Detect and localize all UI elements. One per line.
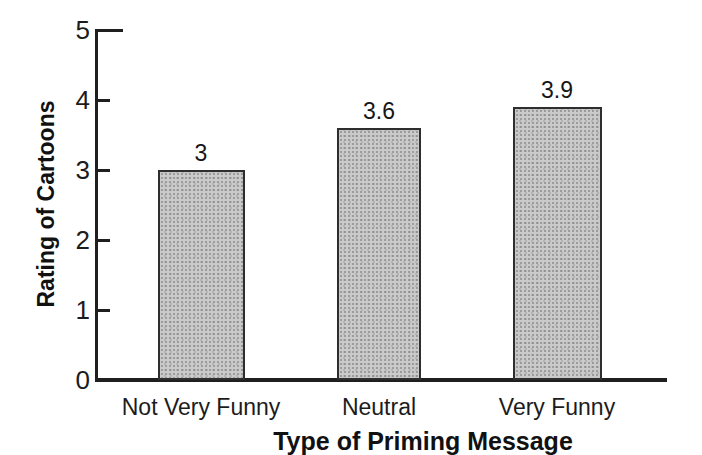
bar [158,170,245,380]
y-tick-label: 4 [28,86,90,114]
bar [337,128,421,380]
category-label: Very Funny [447,394,667,420]
y-axis-line [95,30,98,382]
y-tick [98,239,110,242]
y-tick-label: 0 [28,366,90,394]
y-tick-label: 3 [28,156,90,184]
bar-value-label: 3.6 [334,98,424,124]
y-tick [98,99,110,102]
x-axis-title: Type of Priming Message [223,427,623,455]
y-tick-label: 5 [28,16,90,44]
y-tick [98,309,110,312]
bar [513,107,602,380]
y-axis-top-tick [95,29,123,32]
bar-value-label: 3 [156,140,246,166]
y-tick [98,169,110,172]
y-tick-label: 1 [28,296,90,324]
bar-value-label: 3.9 [512,77,602,103]
bar-chart-figure: Rating of Cartoons 012345 33.63.9 Not Ve… [0,0,702,455]
y-tick-label: 2 [28,226,90,254]
